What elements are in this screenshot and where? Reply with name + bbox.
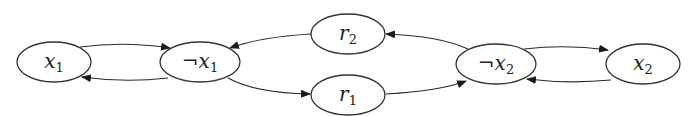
variable-name: x bbox=[495, 51, 506, 75]
node-x1: x1 bbox=[17, 42, 91, 82]
node-r1: r1 bbox=[311, 75, 385, 115]
edge-not_x2-to-x2 bbox=[524, 47, 608, 50]
variable-subscript: 2 bbox=[645, 62, 653, 77]
variable-subscript: 1 bbox=[210, 60, 218, 75]
node-not_x1: ¬x1 bbox=[160, 42, 240, 82]
negation-symbol: ¬ bbox=[478, 51, 495, 75]
node-x2: x2 bbox=[606, 44, 680, 84]
implication-graph: x1¬x1r2r1¬x2x2 bbox=[0, 0, 696, 116]
node-not_x2: ¬x2 bbox=[456, 44, 536, 84]
variable-subscript: 1 bbox=[56, 60, 64, 75]
negation-symbol: ¬ bbox=[182, 49, 199, 73]
node-r2: r2 bbox=[311, 14, 385, 54]
edge-not_x2-to-r2 bbox=[386, 34, 468, 49]
variable-name: x bbox=[199, 49, 210, 73]
edge-r1-to-not_x2 bbox=[386, 81, 466, 94]
variable-name: x bbox=[44, 49, 55, 73]
edge-x2-to-not_x2 bbox=[527, 79, 611, 82]
nodes-group: x1¬x1r2r1¬x2x2 bbox=[17, 14, 680, 115]
edge-not_x1-to-r1 bbox=[228, 78, 310, 94]
edge-not_x1-to-x1 bbox=[82, 77, 168, 80]
edge-r2-to-not_x1 bbox=[230, 34, 311, 48]
variable-subscript: 2 bbox=[349, 32, 357, 47]
variable-subscript: 2 bbox=[506, 62, 514, 77]
variable-name: x bbox=[633, 51, 644, 75]
edge-x1-to-not_x1 bbox=[80, 44, 170, 48]
variable-subscript: 1 bbox=[349, 93, 357, 108]
